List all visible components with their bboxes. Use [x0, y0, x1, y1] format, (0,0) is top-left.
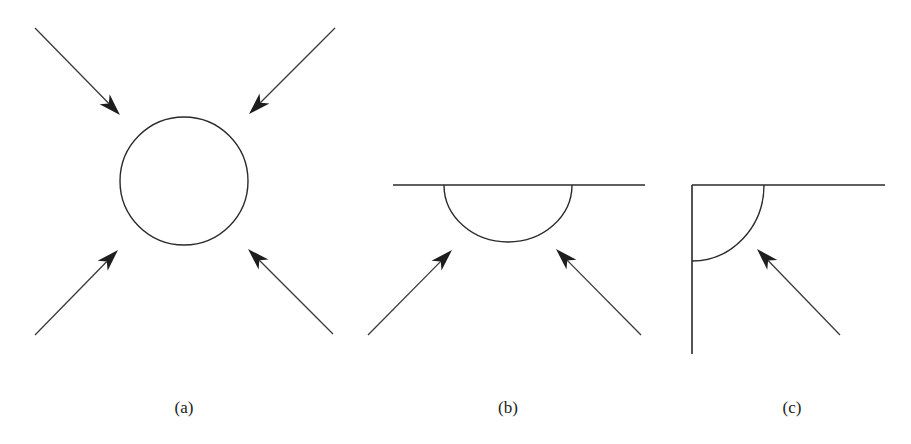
caption-c: (c)	[762, 398, 822, 418]
inward-arrow-icon	[35, 250, 118, 335]
diagram-canvas	[0, 0, 911, 444]
inward-arrow-icon	[35, 28, 120, 115]
panel-c-quarter-sphere-in-corner	[692, 185, 885, 354]
quarter-sphere-arc	[692, 185, 764, 261]
inward-arrow-icon	[556, 249, 641, 335]
inward-arrow-icon	[757, 249, 840, 335]
caption-b: (b)	[478, 398, 538, 418]
caption-a: (a)	[154, 398, 214, 418]
sphere-circle	[120, 117, 248, 245]
inward-arrow-icon	[249, 28, 335, 114]
inward-arrow-icon	[368, 250, 452, 335]
panel-b-hemisphere-on-surface	[368, 185, 645, 335]
inward-arrow-icon	[248, 249, 333, 334]
panel-a-isolated-sphere	[35, 28, 335, 335]
hemisphere-arc	[444, 185, 572, 242]
